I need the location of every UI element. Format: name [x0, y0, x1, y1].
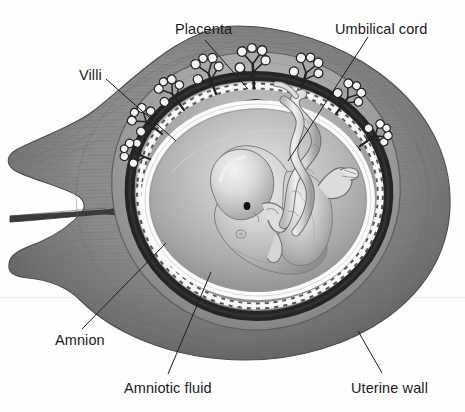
anatomy-illustration	[0, 0, 465, 412]
label-amniotic-fluid: Amniotic fluid	[124, 381, 212, 396]
label-umbilical-cord: Umbilical cord	[335, 22, 427, 37]
label-uterine-wall: Uterine wall	[351, 381, 428, 396]
leader-uterine-wall	[358, 331, 382, 373]
label-amnion: Amnion	[55, 333, 105, 348]
label-placenta: Placenta	[175, 22, 232, 37]
fetus-eye	[244, 202, 251, 210]
label-villi: Villi	[79, 68, 102, 83]
anatomy-figure: Placenta Umbilical cord Villi Amnion Amn…	[0, 0, 465, 412]
